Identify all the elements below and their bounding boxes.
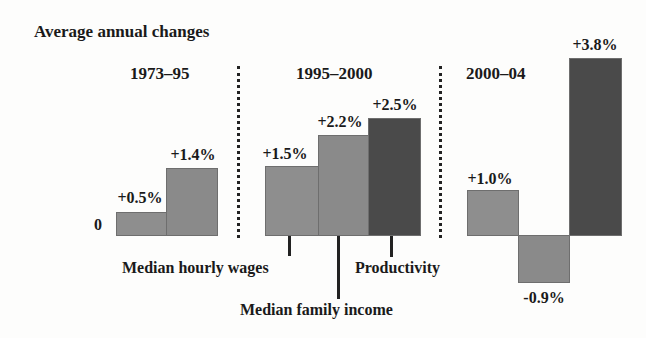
bar-1973-95-median-hourly-wages [116, 212, 167, 236]
callout-line-productivity [390, 236, 393, 257]
bar-1995-2000-median-hourly-wages [265, 166, 319, 236]
legend-productivity: Productivity [355, 259, 440, 277]
callout-line-family-income [337, 236, 340, 299]
zero-axis-label: 0 [94, 216, 102, 234]
period-label-1973-95: 1973–95 [130, 64, 190, 84]
bar-2000-04-median-family-income [518, 235, 570, 283]
bar-1995-2000-median-family-income [318, 135, 369, 236]
legend-median-hourly-wages: Median hourly wages [122, 259, 269, 277]
value-label-1973-95-wages: +0.5% [117, 189, 162, 207]
chart-title: Average annual changes [34, 22, 209, 42]
bar-1973-95-median-family-income [166, 168, 218, 236]
value-label-2000-04-family: -0.9% [523, 289, 564, 307]
period-label-1995-2000: 1995–2000 [296, 64, 373, 84]
period-label-2000-04: 2000–04 [466, 64, 526, 84]
bar-1995-2000-productivity [368, 118, 421, 236]
value-label-2000-04-productivity: +3.8% [572, 36, 617, 54]
period-divider-1 [237, 66, 240, 238]
value-label-1995-2000-family: +2.2% [317, 113, 362, 131]
value-label-2000-04-wages: +1.0% [467, 170, 512, 188]
value-label-1995-2000-wages: +1.5% [262, 145, 307, 163]
legend-median-family-income: Median family income [240, 301, 393, 319]
bar-2000-04-productivity [569, 58, 622, 236]
bar-2000-04-median-hourly-wages [467, 190, 519, 236]
period-divider-2 [439, 66, 442, 238]
chart-figure: Average annual changes 1973–95 1995–2000… [0, 0, 646, 338]
value-label-1973-95-family: +1.4% [170, 146, 215, 164]
value-label-1995-2000-productivity: +2.5% [372, 96, 417, 114]
callout-line-wages [288, 236, 291, 256]
